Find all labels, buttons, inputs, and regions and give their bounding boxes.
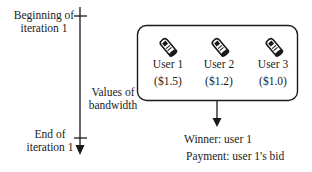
user-1: User 1 ($1.5) bbox=[146, 58, 190, 88]
user-name: User 2 bbox=[197, 58, 241, 71]
user-3: User 3 ($1.0) bbox=[251, 58, 295, 88]
timeline-end-line2: iteration 1 bbox=[22, 141, 78, 154]
bandwidth-label: Values of bandwidth bbox=[86, 86, 140, 112]
user-name: User 3 bbox=[251, 58, 295, 71]
winner-text: Winner: user 1 bbox=[184, 133, 252, 146]
timeline-start-line1: Beginning of bbox=[8, 9, 80, 22]
bandwidth-label-line2: bandwidth bbox=[86, 99, 140, 112]
user-name: User 1 bbox=[146, 58, 190, 71]
mobile-phone-icon bbox=[158, 37, 178, 58]
timeline-start-line2: iteration 1 bbox=[8, 22, 80, 35]
mobile-phone-icon bbox=[264, 37, 284, 58]
bandwidth-label-line1: Values of bbox=[86, 86, 140, 99]
mobile-phone-icon bbox=[210, 37, 230, 58]
payment-text: Payment: user 1's bid bbox=[186, 150, 284, 163]
timeline-end-line1: End of bbox=[22, 128, 78, 141]
user-2: User 2 ($1.2) bbox=[197, 58, 241, 88]
timeline-end-label: End of iteration 1 bbox=[22, 128, 78, 154]
user-bandwidth-value: ($1.0) bbox=[251, 75, 295, 88]
user-bandwidth-value: ($1.2) bbox=[197, 75, 241, 88]
user-bandwidth-value: ($1.5) bbox=[146, 75, 190, 88]
result-arrow bbox=[213, 101, 222, 127]
timeline-start-label: Beginning of iteration 1 bbox=[8, 9, 80, 35]
